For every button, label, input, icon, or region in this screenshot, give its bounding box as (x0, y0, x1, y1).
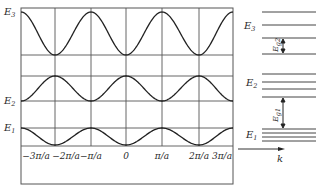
tick-label: 0 (123, 151, 129, 161)
band-curves (21, 12, 233, 145)
label-e2: E2 (3, 95, 15, 108)
right-label-e2: E2 (245, 77, 257, 90)
k-axis-arrowhead (278, 147, 285, 151)
band-curve-e2 (21, 76, 233, 101)
band-curve-e1 (21, 128, 233, 145)
tick-label: π/a (154, 151, 169, 161)
label-e3: E3 (3, 6, 15, 19)
right-label-e3: E3 (243, 20, 255, 33)
grid (21, 8, 233, 146)
right-label-e1: E1 (245, 129, 257, 142)
label-eg1: Eg1 (271, 108, 282, 123)
k-axis-label: k (277, 153, 283, 164)
k-axis (238, 147, 285, 151)
tick-label: 3π/a (212, 151, 232, 161)
tick-label: −π/a (80, 151, 102, 161)
band-diagram: E3 E2 E1 −3π/a −2π/a −π/a 0 π/a 2π/a 3π/… (0, 0, 321, 190)
tick-label: −3π/a (22, 151, 50, 161)
label-eg2: Eg2 (271, 38, 282, 53)
tick-label: 2π/a (188, 151, 209, 161)
band-curve-e3 (21, 12, 233, 55)
tick-label: −2π/a (52, 151, 80, 161)
label-e1: E1 (3, 122, 15, 135)
